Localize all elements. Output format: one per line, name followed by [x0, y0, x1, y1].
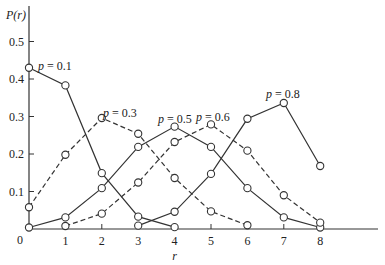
data-point — [135, 143, 142, 150]
data-point — [207, 208, 214, 215]
x-tick-label: 4 — [172, 234, 178, 248]
data-point — [207, 143, 214, 150]
data-point — [280, 192, 287, 199]
data-point — [244, 222, 251, 229]
origin-label: 0 — [17, 233, 23, 247]
data-point — [25, 204, 32, 211]
y-tick-label: 0.1 — [9, 185, 24, 199]
data-point — [135, 130, 142, 137]
binomial-chart: 0.10.20.30.40.5123456780P(r)r p = 0.1p =… — [0, 0, 385, 265]
series-label: p = 0.8 — [265, 87, 300, 101]
data-point — [25, 224, 32, 231]
data-point — [317, 219, 324, 226]
data-point — [98, 185, 105, 192]
x-tick-label: 1 — [62, 234, 68, 248]
data-point — [135, 213, 142, 220]
data-point — [280, 214, 287, 221]
data-point — [62, 82, 69, 89]
data-point — [244, 185, 251, 192]
series-label: p = 0.3 — [102, 106, 137, 120]
x-tick-label: 3 — [135, 234, 141, 248]
data-point — [25, 64, 32, 71]
x-tick-label: 5 — [208, 234, 214, 248]
data-point — [171, 138, 178, 145]
y-axis-title: P(r) — [5, 8, 26, 22]
data-point — [244, 115, 251, 122]
data-point — [171, 224, 178, 231]
data-point — [244, 147, 251, 154]
series-label: p = 0.1 — [37, 59, 72, 73]
series-p-0-3 — [25, 114, 251, 228]
series-label: p = 0.5 — [157, 112, 192, 126]
x-axis-title: r — [172, 249, 177, 263]
y-tick-label: 0.3 — [9, 110, 24, 124]
x-tick-label: 2 — [99, 234, 105, 248]
x-tick-label: 6 — [244, 234, 250, 248]
annotations: p = 0.1p = 0.3p = 0.5p = 0.6p = 0.8 — [37, 59, 300, 126]
data-point — [98, 170, 105, 177]
data-point — [171, 174, 178, 181]
x-tick-label: 8 — [317, 234, 323, 248]
data-point — [135, 179, 142, 186]
data-point — [62, 214, 69, 221]
y-tick-label: 0.5 — [9, 35, 24, 49]
y-tick-label: 0.4 — [9, 72, 24, 86]
data-point — [62, 222, 69, 229]
data-point — [98, 210, 105, 217]
x-tick-label: 7 — [281, 234, 287, 248]
y-tick-label: 0.2 — [9, 147, 24, 161]
data-point — [207, 170, 214, 177]
data-point — [135, 222, 142, 229]
series-label: p = 0.6 — [195, 110, 230, 124]
data-point — [62, 151, 69, 158]
data-point — [317, 162, 324, 169]
data-point — [171, 208, 178, 215]
series-p-0-1 — [25, 64, 178, 231]
